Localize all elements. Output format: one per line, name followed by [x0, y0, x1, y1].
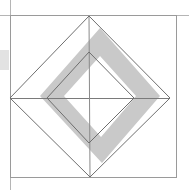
geometric-figure [0, 0, 189, 190]
canvas-background [0, 0, 189, 190]
figure-canvas [0, 0, 189, 190]
left-edge-block [0, 50, 9, 70]
